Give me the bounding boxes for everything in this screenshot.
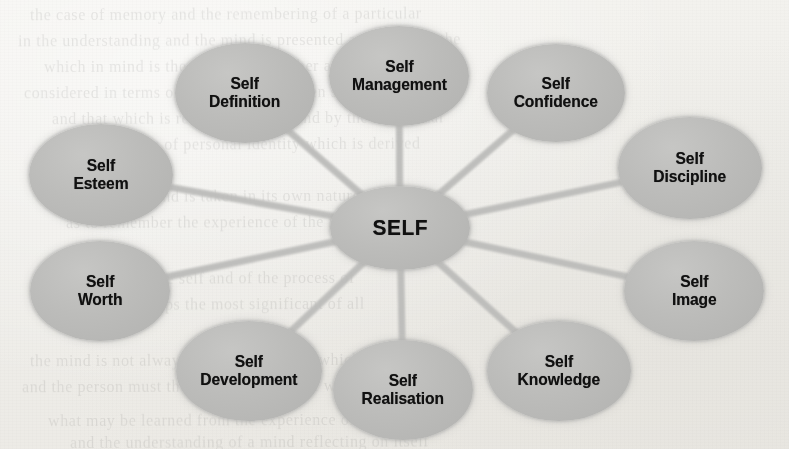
node-self-image: SelfImage [624,241,764,341]
node-self-confidence: SelfConfidence [487,44,625,142]
node-label: SelfDefinition [209,75,280,111]
node-self-discipline: SelfDiscipline [618,117,762,219]
spoke-line [288,261,366,335]
spoke-line [285,128,364,196]
node-label: SelfWorth [78,273,122,309]
node-label: SelfRealisation [362,372,444,408]
node-label: SelfKnowledge [518,353,601,389]
spoke-line [160,241,339,278]
node-self-center: SELF [330,186,470,270]
node-label: SelfEsteem [73,157,128,193]
spoke-line [401,267,403,345]
node-self-knowledge: SelfKnowledge [487,321,631,421]
node-self-management: SelfManagement [329,26,469,126]
node-self-esteem: SelfEsteem [29,124,173,226]
spoke-line [164,186,338,217]
node-label: SELF [372,216,428,239]
node-label: SelfConfidence [514,75,598,111]
node-self-worth: SelfWorth [30,241,170,341]
node-self-definition: SelfDefinition [175,43,315,143]
spoke-line [461,181,628,216]
node-self-realisation: SelfRealisation [333,340,473,440]
node-label: SelfDevelopment [200,353,297,389]
node-label: SelfImage [672,273,717,309]
scanned-page: the case of memory and the remembering o… [0,0,789,449]
node-label: SelfDiscipline [654,150,727,186]
spoke-line [437,127,517,196]
spoke-line [436,260,520,335]
node-label: SelfManagement [352,58,447,94]
node-self-development: SelfDevelopment [176,321,322,421]
spoke-line [461,241,634,278]
